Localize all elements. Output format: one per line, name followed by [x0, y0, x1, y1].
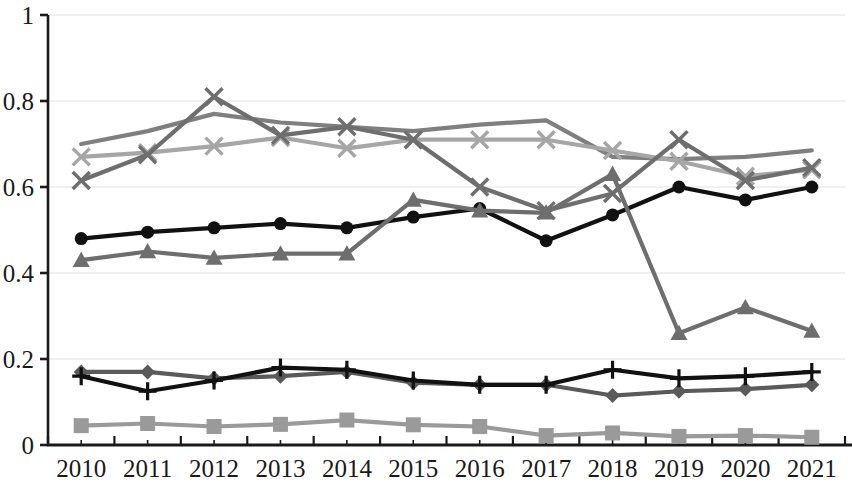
marker-plus	[205, 372, 223, 390]
marker-circle	[739, 193, 752, 206]
marker-plus	[604, 361, 622, 379]
series-line	[81, 187, 812, 241]
marker-circle	[672, 181, 685, 194]
y-tick-label: 0.2	[3, 346, 34, 373]
marker-triangle	[737, 299, 754, 314]
x-tick-label: 2016	[455, 455, 505, 482]
marker-x	[670, 131, 687, 148]
marker-circle	[407, 211, 420, 224]
y-axis: 00.20.40.60.81	[3, 2, 48, 459]
series-line	[81, 174, 812, 333]
marker-circle	[274, 217, 287, 230]
marker-square	[804, 430, 819, 445]
x-tick-label: 2012	[189, 455, 239, 482]
marker-x	[206, 88, 223, 105]
x-axis: 2010201120122013201420152016201720182019…	[47, 436, 852, 482]
marker-square	[207, 419, 222, 434]
marker-square	[273, 417, 288, 432]
marker-circle	[141, 226, 154, 239]
marker-plus	[537, 376, 555, 394]
marker-square	[74, 418, 89, 433]
y-tick-label: 0.8	[3, 88, 34, 115]
x-tick-label: 2013	[255, 455, 305, 482]
marker-plus	[338, 361, 356, 379]
x-tick-label: 2018	[588, 455, 638, 482]
y-tick-label: 0	[22, 432, 35, 459]
marker-square	[339, 413, 354, 428]
series-series-x-dark	[73, 88, 821, 219]
marker-square	[605, 425, 620, 440]
y-tick-label: 0.6	[3, 174, 34, 201]
marker-square	[671, 429, 686, 444]
marker-square	[738, 428, 753, 443]
marker-plus	[736, 367, 754, 385]
marker-circle	[75, 232, 88, 245]
marker-circle	[805, 181, 818, 194]
y-tick-label: 0.4	[3, 260, 35, 287]
marker-circle	[606, 208, 619, 221]
marker-square	[472, 419, 487, 434]
x-tick-label: 2014	[322, 455, 373, 482]
marker-square	[140, 416, 155, 431]
marker-diamond	[140, 364, 155, 379]
marker-diamond	[605, 388, 620, 403]
x-tick-label: 2015	[388, 455, 438, 482]
gridlines	[48, 15, 845, 359]
marker-circle	[340, 221, 353, 234]
marker-circle	[208, 221, 221, 234]
series-line	[81, 420, 812, 437]
marker-plus	[139, 382, 157, 400]
marker-plus	[471, 376, 489, 394]
marker-plus	[803, 363, 821, 381]
x-tick-label: 2010	[56, 455, 106, 482]
chart-container: 00.20.40.60.8120102011201220132014201520…	[0, 0, 852, 491]
x-tick-label: 2021	[787, 455, 837, 482]
marker-square	[406, 417, 421, 432]
marker-square	[539, 428, 554, 443]
series-series-circle-black	[75, 181, 819, 248]
marker-triangle	[604, 166, 621, 181]
marker-circle	[540, 234, 553, 247]
marker-plus	[670, 369, 688, 387]
x-tick-label: 2020	[720, 455, 770, 482]
series-series-plus-black	[72, 359, 821, 401]
line-chart: 00.20.40.60.8120102011201220132014201520…	[0, 0, 852, 491]
x-tick-label: 2011	[123, 455, 172, 482]
y-tick-label: 1	[22, 2, 35, 29]
x-tick-label: 2017	[521, 455, 571, 482]
marker-plus	[404, 372, 422, 390]
series-line	[81, 368, 812, 392]
x-tick-label: 2019	[654, 455, 704, 482]
